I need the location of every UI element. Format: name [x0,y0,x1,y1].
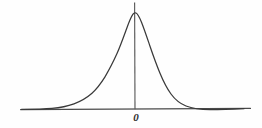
origin-zero-label: 0 [133,111,139,123]
bell-curve-figure: 0 [0,0,262,128]
normal-distribution-curve [22,13,245,110]
plot-area: 0 [0,0,262,128]
